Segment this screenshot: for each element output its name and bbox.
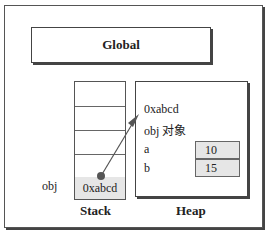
pointer-dot-icon bbox=[97, 172, 105, 180]
arrowhead-icon bbox=[128, 114, 139, 127]
reference-arrow bbox=[0, 0, 269, 235]
